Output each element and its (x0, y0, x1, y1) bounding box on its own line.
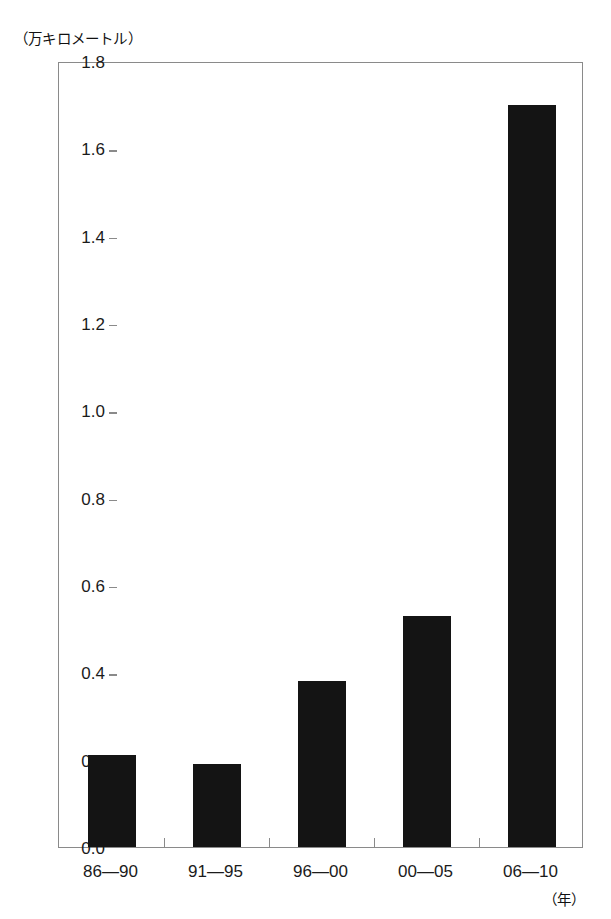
x-axis-tick-mark (164, 838, 165, 847)
y-axis-tick-mark (109, 587, 117, 588)
y-axis-tick-mark (109, 674, 117, 675)
bar (403, 616, 451, 847)
chart-plot-area: 1.81.61.41.21.00.80.60.40.20.0 (58, 62, 583, 848)
x-axis-category-label: 86—90 (58, 862, 163, 882)
y-axis-tick-label: 1.8 (81, 53, 105, 73)
x-axis-category-label: 91—95 (163, 862, 268, 882)
x-axis-unit-label: （年） (543, 888, 585, 909)
y-axis-tick-label: 1.2 (81, 315, 105, 335)
y-axis-tick-mark (109, 325, 117, 326)
y-axis-tick-mark (109, 238, 117, 239)
bar (508, 105, 556, 847)
y-axis-tick-label: 0.8 (81, 490, 105, 510)
y-axis-tick-label: 0.6 (81, 577, 105, 597)
y-axis-tick-label: 1.6 (81, 140, 105, 160)
y-axis-tick-label: 1.4 (81, 228, 105, 248)
x-axis-category-label: 00—05 (373, 862, 478, 882)
x-axis-category-label: 96—00 (268, 862, 373, 882)
x-axis-tick-mark (269, 838, 270, 847)
bar (193, 764, 241, 847)
bar (298, 681, 346, 847)
y-axis-tick-mark (109, 150, 117, 151)
y-axis-tick-mark (109, 500, 117, 501)
x-axis-tick-mark (374, 838, 375, 847)
y-axis-unit-label: （万キロメートル） (14, 27, 142, 48)
y-axis-tick-label: 1.0 (81, 402, 105, 422)
x-axis-category-label: 06—10 (478, 862, 583, 882)
y-axis-tick-label: 0.4 (81, 664, 105, 684)
y-axis-tick-mark (109, 412, 117, 413)
bar (88, 755, 136, 847)
x-axis-tick-mark (479, 838, 480, 847)
